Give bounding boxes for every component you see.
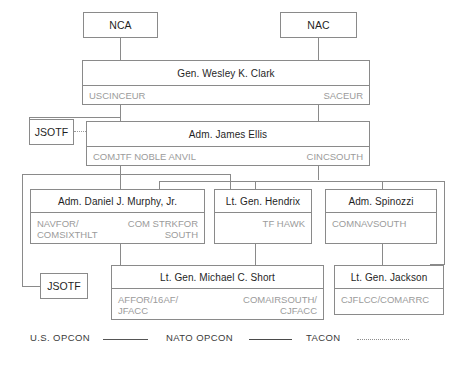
node-clark-role-right: SACEUR: [323, 90, 363, 101]
node-clark-role-left: USCINCEUR: [89, 90, 145, 101]
connector-nca-to-clark: [120, 38, 121, 60]
legend-line-tacon: [357, 339, 409, 340]
node-short-role-left: AFFOR/16AF/ JFACC: [118, 294, 178, 316]
node-spinozzi[interactable]: Adm. Spinozzi COMNAVSOUTH: [325, 189, 437, 244]
node-jackson[interactable]: Lt. Gen. Jackson CJFLCC/COMARRC: [334, 265, 444, 315]
node-spinozzi-role-left: COMNAVSOUTH: [332, 218, 406, 229]
node-short-role-right: COMAIRSOUTH/ CJFACC: [243, 294, 317, 316]
node-jackson-role-left: CJFLCC/COMARRC: [341, 294, 429, 305]
legend-label-nato-opcon: NATO OPCON: [166, 332, 233, 343]
node-ellis-role-left: COMJTF NOBLE ANVIL: [93, 151, 196, 162]
connector-nato-bus-right-drop: [444, 181, 445, 264]
legend-label-tacon: TACON: [306, 332, 341, 343]
node-nca[interactable]: NCA: [83, 12, 158, 38]
connector-nato-bus-to-hendrix: [255, 181, 256, 189]
node-clark[interactable]: Gen. Wesley K. Clark USCINCEUR SACEUR: [82, 60, 370, 105]
connector-nac-to-clark: [318, 38, 319, 60]
node-jsotf-bottom[interactable]: JSOTF: [40, 273, 88, 299]
connector-us-to-murphy: [120, 174, 121, 189]
connector-us-bus-extend: [120, 174, 230, 175]
node-short-title: Lt. Gen. Michael C. Short: [112, 266, 323, 288]
connector-ellis-down-right: [318, 166, 319, 180]
node-jsotf-bottom-title: JSOTF: [47, 281, 81, 292]
connector-us-bus-left-drop: [22, 174, 23, 286]
node-spinozzi-title: Adm. Spinozzi: [326, 190, 436, 212]
connector-bar-to-jsotf-top: [29, 117, 121, 118]
node-ellis-title: Adm. James Ellis: [87, 122, 369, 146]
node-clark-roles: USCINCEUR SACEUR: [83, 85, 369, 105]
tacon-link-jsotf-ellis: [74, 131, 86, 132]
connector-us-to-hendrix: [230, 174, 231, 189]
node-nca-title: NCA: [109, 20, 131, 31]
node-murphy-role-left: NAVFOR/ COMSIXTHLT: [37, 218, 98, 240]
org-chart-diagram: NCA NAC Gen. Wesley K. Clark USCINCEUR S…: [0, 0, 463, 369]
node-nac[interactable]: NAC: [280, 12, 357, 38]
connector-clark-to-ellis-left: [120, 105, 121, 117]
node-short-roles: AFFOR/16AF/ JFACC COMAIRSOUTH/ CJFACC: [112, 288, 323, 320]
node-jackson-roles: CJFLCC/COMARRC: [335, 288, 443, 315]
node-murphy-title: Adm. Daniel J. Murphy, Jr.: [31, 190, 204, 212]
node-hendrix-roles: TF HAWK: [215, 212, 311, 244]
node-jackson-title: Lt. Gen. Jackson: [335, 266, 443, 288]
node-jsotf-top[interactable]: JSOTF: [29, 119, 74, 145]
connector-bus-to-jsotf-bottom: [22, 286, 40, 287]
connector-ellis-down-left: [120, 166, 121, 174]
connector-hendrix-down: [255, 244, 256, 265]
node-hendrix-title: Lt. Gen. Hendrix: [215, 190, 311, 212]
legend-line-nato-opcon: [249, 339, 292, 340]
node-hendrix[interactable]: Lt. Gen. Hendrix TF HAWK: [214, 189, 312, 244]
connector-murphy-down: [120, 244, 121, 265]
connector-nato-bus-to-murphy: [159, 181, 160, 189]
connector-nato-bus-to-spinozzi: [382, 181, 383, 189]
node-jsotf-top-title: JSOTF: [35, 127, 69, 138]
legend-line-us-opcon: [103, 339, 148, 340]
node-ellis-roles: COMJTF NOBLE ANVIL CINCSOUTH: [87, 146, 369, 166]
connector-spinozzi-down: [382, 244, 383, 265]
node-murphy-roles: NAVFOR/ COMSIXTHLT COM STRKFOR SOUTH: [31, 212, 204, 244]
node-spinozzi-roles: COMNAVSOUTH: [326, 212, 436, 244]
node-ellis-role-right: CINCSOUTH: [307, 151, 363, 162]
connector-us-opcon-bus: [22, 174, 121, 175]
node-clark-title: Gen. Wesley K. Clark: [83, 61, 369, 85]
node-nac-title: NAC: [307, 20, 329, 31]
node-short[interactable]: Lt. Gen. Michael C. Short AFFOR/16AF/ JF…: [111, 265, 324, 320]
legend-label-us-opcon: U.S. OPCON: [30, 332, 90, 343]
node-murphy-role-right: COM STRKFOR SOUTH: [128, 218, 198, 240]
node-ellis[interactable]: Adm. James Ellis COMJTF NOBLE ANVIL CINC…: [86, 121, 370, 166]
node-murphy[interactable]: Adm. Daniel J. Murphy, Jr. NAVFOR/ COMSI…: [30, 189, 205, 244]
node-hendrix-role-right: TF HAWK: [263, 218, 305, 229]
connector-nato-opcon-bus: [159, 181, 444, 182]
legend: U.S. OPCON NATO OPCON TACON: [0, 332, 463, 352]
